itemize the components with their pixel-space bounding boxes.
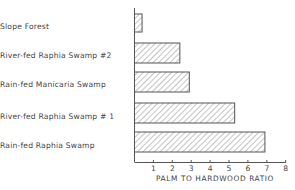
bar-4 [135,132,265,152]
bar-0 [135,14,143,32]
bar-2 [135,72,190,92]
x-tick-label: 4 [208,164,213,173]
x-tick-label: 8 [283,164,288,173]
x-tick-label: 5 [227,164,232,173]
plot-area [0,0,295,190]
x-axis-label: PALM TO HARDWOOD RATIO [156,174,274,183]
x-tick-label: 3 [189,164,194,173]
bar-1 [135,43,180,63]
x-tick-label: 7 [264,164,269,173]
bar-3 [135,103,235,123]
x-tick-label: 2 [170,164,175,173]
x-tick-label: 6 [245,164,250,173]
x-tick-label: 1 [151,164,156,173]
